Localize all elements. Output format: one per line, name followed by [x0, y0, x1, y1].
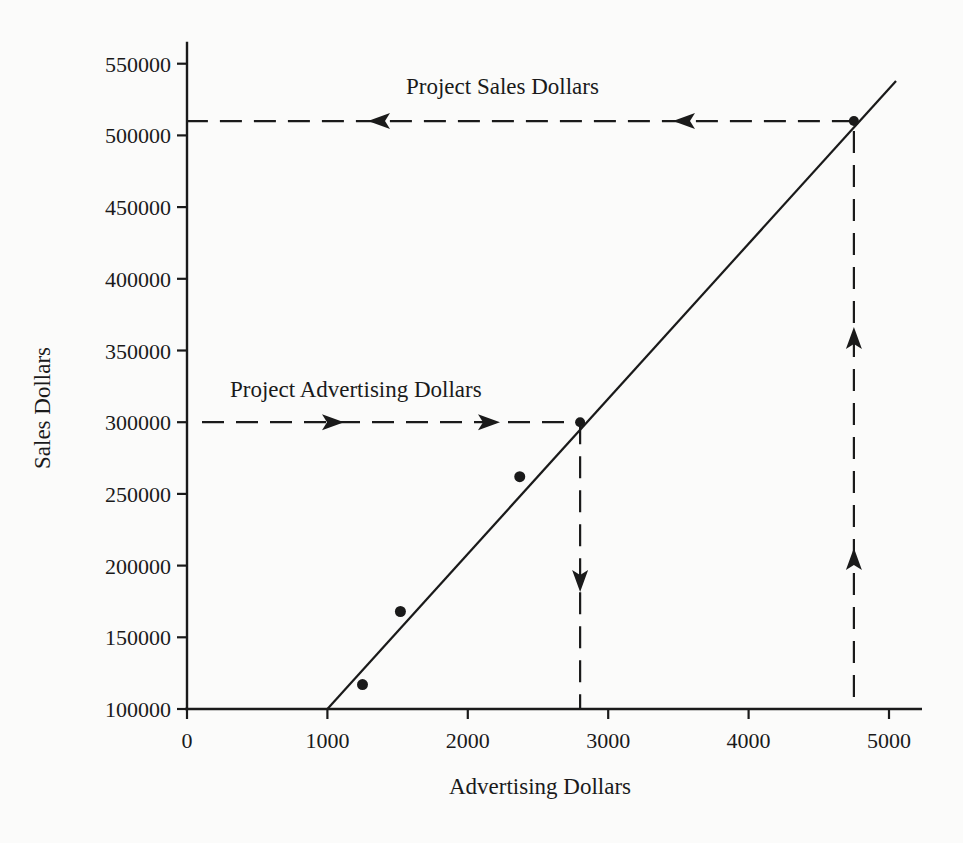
- annotation-project-sales: Project Sales Dollars: [406, 74, 599, 99]
- axes: [185, 42, 922, 709]
- axis-ticks: 1000001500002000002500003000003500004000…: [105, 52, 911, 753]
- annotation-project-advertising: Project Advertising Dollars: [230, 377, 482, 402]
- projection-lines: [187, 113, 862, 709]
- y-tick-label: 450000: [105, 195, 171, 220]
- x-tick-label: 3000: [586, 728, 630, 753]
- y-tick-label: 200000: [105, 554, 171, 579]
- data-point: [395, 606, 406, 617]
- x-tick-label: 4000: [727, 728, 771, 753]
- y-tick-label: 400000: [105, 267, 171, 292]
- annotations: Project Sales Dollars Project Advertisin…: [230, 74, 599, 402]
- chart-canvas: 1000001500002000002500003000003500004000…: [0, 0, 963, 843]
- y-tick-label: 500000: [105, 123, 171, 148]
- arrow-up-icon: [846, 548, 862, 570]
- y-tick-label: 350000: [105, 339, 171, 364]
- y-tick-label: 300000: [105, 410, 171, 435]
- chart: 1000001500002000002500003000003500004000…: [0, 0, 963, 843]
- x-axis-title: Advertising Dollars: [449, 774, 631, 799]
- data-point: [514, 471, 525, 482]
- arrow-left-icon: [368, 113, 390, 129]
- x-tick-label: 0: [182, 728, 193, 753]
- y-tick-label: 100000: [105, 697, 171, 722]
- data-point: [357, 679, 368, 690]
- y-tick-label: 550000: [105, 52, 171, 77]
- x-tick-label: 5000: [867, 728, 911, 753]
- x-tick-label: 1000: [305, 728, 349, 753]
- y-tick-label: 250000: [105, 482, 171, 507]
- y-tick-label: 150000: [105, 625, 171, 650]
- x-tick-label: 2000: [446, 728, 490, 753]
- y-axis-title: Sales Dollars: [30, 347, 55, 469]
- arrow-left-icon: [673, 113, 695, 129]
